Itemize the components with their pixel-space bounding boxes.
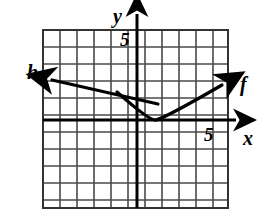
function-h-label: h (27, 62, 38, 82)
function-f-label: f (240, 74, 247, 94)
coordinate-plane (0, 0, 264, 217)
x-axis-label: x (243, 128, 253, 148)
x-axis-tick-label-5: 5 (204, 125, 214, 144)
y-axis-label: y (113, 6, 122, 26)
function-h-ray (52, 80, 158, 104)
y-axis-tick-label-5: 5 (120, 30, 130, 49)
graph-figure: y x h f 5 5 (0, 0, 264, 217)
